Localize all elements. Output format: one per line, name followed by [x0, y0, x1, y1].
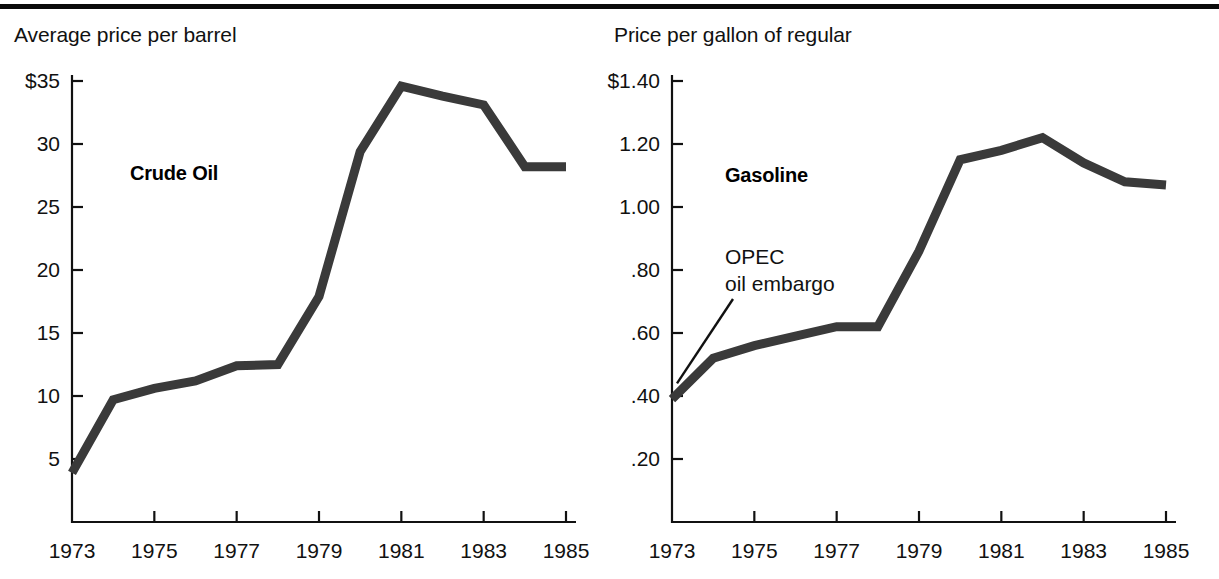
x-axis-tick-label: 1977 [192, 540, 282, 561]
y-axis-tick-label: 30 [0, 133, 60, 154]
x-axis-tick-label: 1981 [356, 540, 446, 561]
y-axis-tick-label: 10 [0, 385, 60, 406]
opec-embargo-annotation-line2: oil embargo [725, 270, 835, 297]
opec-embargo-annotation: OPEC oil embargo [725, 243, 835, 297]
y-axis-tick-label: 1.20 [600, 133, 660, 154]
x-axis-tick-label: 1979 [874, 540, 964, 561]
x-axis-tick-label: 1973 [27, 540, 117, 561]
chart-panel-crude-oil: Average price per barrel Crude Oil $3530… [0, 9, 610, 579]
x-axis-tick-label: 1983 [439, 540, 529, 561]
x-axis-tick-label: 1975 [709, 540, 799, 561]
y-axis-tick-label: $35 [0, 70, 60, 91]
crude-oil-plot [0, 9, 610, 579]
y-axis-tick-label: .20 [600, 448, 660, 469]
oil-gasoline-price-figure: Average price per barrel Crude Oil $3530… [0, 9, 1219, 579]
x-axis-tick-label: 1979 [274, 540, 364, 561]
x-axis-tick-label: 1973 [627, 540, 717, 561]
series-label-gasoline: Gasoline [725, 164, 808, 187]
axis-spine [672, 75, 1176, 522]
y-axis-tick-label: .80 [600, 259, 660, 280]
series-label-crude-oil: Crude Oil [130, 162, 218, 185]
x-axis-tick-label: 1981 [956, 540, 1046, 561]
data-series-line [72, 86, 566, 473]
y-axis-tick-label: .60 [600, 322, 660, 343]
x-axis-tick-label: 1975 [109, 540, 199, 561]
y-axis-tick-label: $1.40 [600, 70, 660, 91]
y-axis-tick-label: .40 [600, 385, 660, 406]
chart-panel-gasoline: Price per gallon of regular Gasoline OPE… [600, 9, 1210, 579]
x-axis-tick-label: 1983 [1039, 540, 1129, 561]
y-axis-tick-label: 5 [0, 448, 60, 469]
y-axis-tick-label: 1.00 [600, 196, 660, 217]
y-axis-tick-label: 15 [0, 322, 60, 343]
axis-spine [72, 75, 576, 522]
gasoline-plot [600, 9, 1219, 579]
x-axis-tick-label: 1977 [792, 540, 882, 561]
y-axis-tick-label: 25 [0, 196, 60, 217]
x-axis-tick-label: 1985 [1121, 540, 1211, 561]
y-axis-tick-label: 20 [0, 259, 60, 280]
opec-embargo-annotation-line1: OPEC [725, 243, 835, 270]
x-axis-tick-label: 1985 [521, 540, 611, 561]
